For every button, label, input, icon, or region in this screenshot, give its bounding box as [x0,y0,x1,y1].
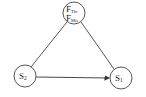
node-s2: S2 [14,65,36,87]
edge-s2-s1-arrow [36,77,109,78]
node-s1: S1 [110,67,132,89]
diagram-canvas: FThr FMis S2 S1 [0,0,146,97]
edge-f-s2 [31,22,67,67]
node-f: FThr FMis [63,2,85,24]
edge-f-s1 [81,22,114,69]
